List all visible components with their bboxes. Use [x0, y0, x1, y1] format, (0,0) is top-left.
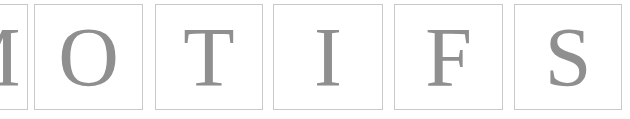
- letter-box-m: M: [0, 4, 28, 110]
- letter-box-s: S: [514, 4, 622, 110]
- letter-glyph-m: M: [0, 14, 20, 100]
- letter-glyph-o: O: [58, 14, 119, 100]
- letter-glyph-i: I: [314, 14, 342, 100]
- letter-glyph-s: S: [545, 14, 592, 100]
- letter-glyph-t: T: [183, 14, 234, 100]
- letter-glyph-f: F: [425, 14, 472, 100]
- letter-grid-canvas: MOTIFS: [0, 0, 630, 119]
- letter-box-t: T: [155, 4, 263, 110]
- letter-box-o: O: [34, 4, 143, 110]
- letter-box-i: I: [273, 4, 383, 110]
- letter-box-f: F: [394, 4, 503, 110]
